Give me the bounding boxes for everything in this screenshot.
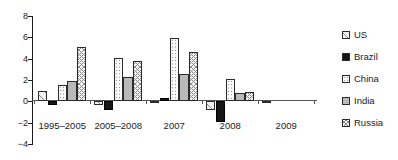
legend-swatch-icon <box>342 119 350 127</box>
y-axis-tick-label: 8 <box>23 12 28 21</box>
bar-china-0 <box>58 85 67 101</box>
bar-us-0 <box>38 91 47 102</box>
x-axis-category-label: 2007 <box>164 121 185 131</box>
bar-brazil-0 <box>48 101 57 104</box>
x-axis-tick <box>90 100 91 104</box>
y-axis-tick <box>28 144 33 145</box>
legend-swatch-icon <box>342 75 350 83</box>
legend-swatch-icon <box>342 31 350 39</box>
chart-legend: USBrazilChinaIndiaRussia <box>342 24 398 134</box>
bar-china-2 <box>170 38 179 101</box>
bar-india-3 <box>235 93 244 101</box>
bar-brazil-3 <box>216 101 225 121</box>
bar-us-1 <box>94 101 103 104</box>
legend-item-label: China <box>354 74 379 84</box>
x-axis-tick <box>314 100 315 104</box>
plot-area: 86420−2−4 1995–20052005–2008200720082009 <box>32 14 322 144</box>
bar-russia-2 <box>189 52 198 101</box>
y-axis-tick-label: 2 <box>23 76 28 85</box>
y-axis-tick-label: −4 <box>18 140 28 149</box>
legend-swatch-icon <box>342 53 350 61</box>
x-axis-category-label: 2009 <box>276 121 297 131</box>
legend-item-india[interactable]: India <box>342 90 398 112</box>
legend-swatch-icon <box>342 97 350 105</box>
y-axis-tick <box>28 16 33 17</box>
y-axis-tick <box>28 80 33 81</box>
x-axis-tick <box>258 100 259 104</box>
bar-china-1 <box>114 58 123 102</box>
legend-item-label: US <box>354 30 367 40</box>
bar-russia-1 <box>133 61 142 102</box>
bar-brazil-2 <box>160 98 169 101</box>
x-axis-category-label: 2008 <box>220 121 241 131</box>
bar-india-1 <box>123 77 132 102</box>
y-axis-tick <box>28 123 33 124</box>
bar-chart: 86420−2−4 1995–20052005–2008200720082009… <box>0 0 398 160</box>
legend-item-brazil[interactable]: Brazil <box>342 46 398 68</box>
x-axis-tick <box>202 100 203 104</box>
y-axis-tick <box>28 37 33 38</box>
y-axis-tick <box>28 101 33 102</box>
legend-item-label: Russia <box>354 118 383 128</box>
y-axis-tick-label: 6 <box>23 33 28 42</box>
bar-brazil-1 <box>104 101 113 110</box>
legend-item-china[interactable]: China <box>342 68 398 90</box>
bar-us-2 <box>150 101 159 103</box>
x-axis-category-label: 2005–2008 <box>94 121 142 131</box>
x-axis-tick <box>146 100 147 104</box>
x-axis-tick <box>34 100 35 104</box>
y-axis-tick-label: −2 <box>18 118 28 127</box>
legend-item-label: Brazil <box>354 52 378 62</box>
bar-india-2 <box>179 74 188 102</box>
legend-item-us[interactable]: US <box>342 24 398 46</box>
bar-russia-3 <box>245 92 254 101</box>
bar-russia-0 <box>77 47 86 101</box>
legend-item-russia[interactable]: Russia <box>342 112 398 134</box>
legend-item-label: India <box>354 96 375 106</box>
bar-china-3 <box>226 79 235 101</box>
x-axis-category-label: 1995–2005 <box>38 121 86 131</box>
y-axis-tick-label: 4 <box>23 54 28 63</box>
bar-us-4 <box>262 101 271 103</box>
bar-us-3 <box>206 101 215 110</box>
bar-india-0 <box>67 81 76 101</box>
y-axis-tick-label: 0 <box>23 97 28 106</box>
y-axis-tick <box>28 59 33 60</box>
